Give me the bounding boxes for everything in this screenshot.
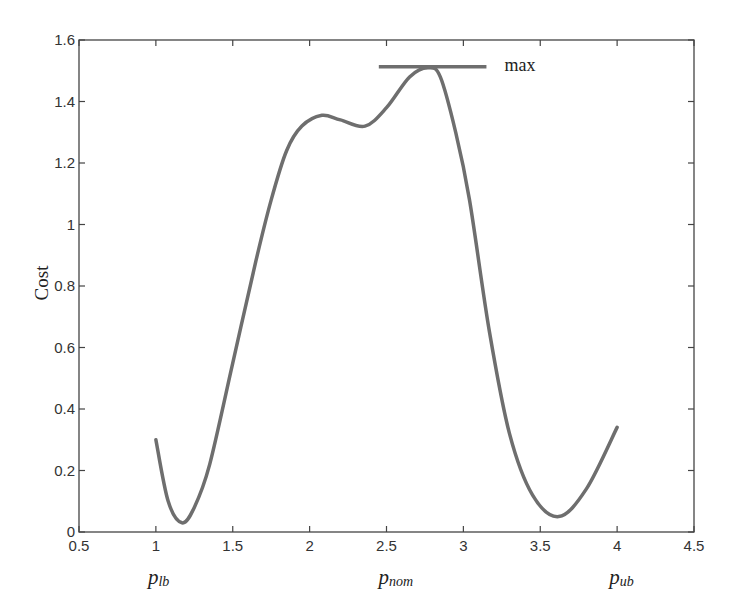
bound-label-nom: pnom	[377, 565, 414, 589]
y-tick-label: 1.2	[54, 154, 75, 171]
y-tick-label: 0	[67, 523, 75, 540]
bound-label-lb: plb	[146, 565, 169, 589]
x-tick-label: 4	[613, 537, 621, 554]
x-tick-label: 2.5	[376, 537, 397, 554]
x-tick-label: 1	[152, 537, 160, 554]
y-tick-label: 1.6	[54, 31, 75, 48]
y-tick-label: 1	[67, 216, 75, 233]
x-tick-label: 3.5	[530, 537, 551, 554]
x-tick-labels: 0.511.522.533.544.5	[69, 537, 705, 554]
y-tick-label: 1.4	[54, 93, 75, 110]
y-tick-label: 0.2	[54, 462, 75, 479]
x-tick-label: 1.5	[222, 537, 243, 554]
x-tick-label: 4.5	[684, 537, 705, 554]
y-tick-label: 0.8	[54, 277, 75, 294]
bound-label-ub: pub	[607, 565, 634, 589]
x-tick-label: 2	[305, 537, 313, 554]
cost-curve	[156, 68, 617, 523]
y-tick-label: 0.6	[54, 339, 75, 356]
x-tick-label: 3	[459, 537, 467, 554]
cost-chart: 0.511.522.533.544.5 00.20.40.60.811.21.4…	[0, 0, 742, 612]
bound-labels: plbpnompub	[146, 565, 634, 589]
max-label: max	[504, 55, 535, 75]
y-tick-labels: 00.20.40.60.811.21.41.6	[54, 31, 75, 540]
y-tick-label: 0.4	[54, 400, 75, 417]
y-axis-title: Cost	[31, 265, 52, 301]
